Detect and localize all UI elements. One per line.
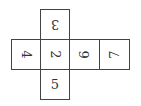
face-label-center: 2 (49, 50, 62, 58)
face-center: 2 (40, 39, 70, 70)
face-bottom: 5 (40, 69, 70, 100)
face-left: 4 (11, 39, 41, 70)
face-label-right-1: 6 (78, 50, 91, 58)
face-right-2: 7 (99, 39, 130, 70)
face-top: 3 (40, 9, 70, 40)
face-label-right-2: 7 (108, 50, 121, 58)
face-label-top: 3 (51, 18, 59, 31)
cube-net-diagram: 3 4 2 6 7 5 (0, 0, 141, 106)
face-right-1: 6 (69, 39, 100, 70)
face-label-left: 4 (20, 50, 33, 58)
face-label-bottom: 5 (51, 78, 59, 91)
